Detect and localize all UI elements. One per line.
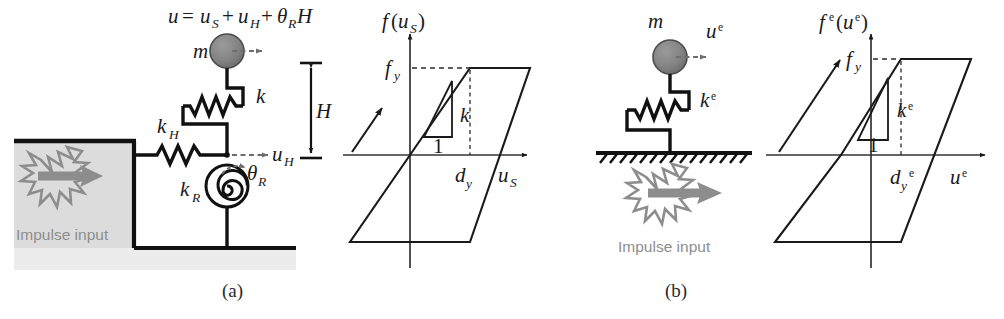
spring-ke-assembly: k e bbox=[627, 74, 716, 153]
fy-label-right: f bbox=[846, 47, 855, 71]
mass-a: m bbox=[193, 34, 262, 68]
H-label: H bbox=[315, 99, 333, 123]
equation-plus-2: + bbox=[261, 4, 273, 28]
xlabel-u-right: u bbox=[950, 165, 961, 189]
slope-triangle-left bbox=[424, 81, 452, 137]
spring-kh-label: k bbox=[157, 114, 167, 138]
k-label-right: k bbox=[897, 98, 907, 122]
fy-sublabel-right: y bbox=[853, 59, 861, 74]
k-label-left: k bbox=[460, 103, 470, 127]
loop-direction-arrow-left bbox=[352, 108, 382, 152]
equation-plus-1: + bbox=[222, 4, 234, 28]
figure-container: Impulse input u = u S + u H + θ R H m bbox=[0, 0, 1004, 319]
ylabel-open-right: ( bbox=[836, 10, 843, 34]
fixed-ground-b bbox=[596, 153, 752, 163]
mass-label-a: m bbox=[193, 39, 208, 63]
mass-b: m u e bbox=[648, 9, 723, 74]
xlabel-u-left: u bbox=[498, 163, 509, 187]
equation-us-sub: S bbox=[212, 16, 219, 31]
spring-k-label: k bbox=[256, 84, 266, 108]
ylabel-f-left: f bbox=[382, 9, 391, 33]
equation-uh: u bbox=[238, 4, 249, 28]
disp-label-b: u bbox=[706, 19, 717, 43]
xlabel-sub-left: S bbox=[510, 175, 517, 190]
spring-ke-label: k bbox=[700, 88, 710, 112]
ylabel-f-right: f bbox=[819, 10, 828, 34]
spring-kh-coil bbox=[134, 146, 227, 164]
ylabel-sub-left: S bbox=[410, 21, 417, 36]
mass-circle-b bbox=[653, 40, 687, 74]
hysteresis-right: f e ( u e ) u e f y d y e k e 1 bbox=[766, 10, 985, 268]
rod-spring-k-to-node bbox=[183, 106, 227, 155]
panel-a: Impulse input u = u S + u H + θ R H m bbox=[14, 4, 333, 302]
dy-sublabel-left: y bbox=[464, 176, 472, 191]
equation-u: u bbox=[168, 4, 179, 28]
ylabel-usup-right: e bbox=[855, 11, 860, 23]
ground-hatching-b bbox=[600, 154, 747, 163]
dy-sublabel-right: y bbox=[899, 178, 907, 193]
spring-kr-label: k bbox=[180, 177, 190, 201]
height-dimension-H: H bbox=[300, 63, 333, 158]
impulse-burst-b bbox=[626, 164, 722, 224]
loop-direction-arrow-right bbox=[779, 60, 840, 152]
equation-theta: θ bbox=[277, 4, 287, 28]
theta-r-label: θ bbox=[247, 161, 257, 185]
mass-circle-a bbox=[210, 34, 244, 68]
figure-canvas: Impulse input u = u S + u H + θ R H m bbox=[0, 0, 1004, 319]
spring-ke-coil bbox=[627, 101, 689, 119]
caption-b: (b) bbox=[665, 280, 687, 302]
spring-k-assembly: k bbox=[183, 68, 266, 155]
ylabel-u-right: u bbox=[843, 10, 854, 34]
y-axis-label-left: f ( u S ) bbox=[382, 9, 425, 36]
unit-run-label-right: 1 bbox=[868, 133, 879, 157]
ylabel-close-right: ) bbox=[861, 10, 868, 34]
theta-r-sublabel: R bbox=[257, 174, 267, 189]
equation-uh-sub: H bbox=[249, 16, 261, 31]
base-node bbox=[224, 152, 230, 158]
annotation-k-right: k e bbox=[897, 98, 913, 122]
spring-kh-assembly: k H bbox=[134, 114, 227, 164]
spring-kr-assembly: k R bbox=[180, 165, 248, 248]
ylabel-sup-right: e bbox=[829, 11, 834, 23]
ylabel-open-left: ( bbox=[391, 9, 398, 33]
ylabel-close-left: ) bbox=[418, 9, 425, 33]
caption-a: (a) bbox=[222, 280, 243, 302]
x-axis-label-right: u e bbox=[950, 165, 967, 189]
equation-equals: = bbox=[182, 4, 194, 28]
unit-run-label-left: 1 bbox=[433, 134, 444, 158]
ylabel-u-left: u bbox=[398, 9, 409, 33]
rod-spring-ke-to-ground bbox=[627, 110, 670, 153]
disp-sup-b: e bbox=[718, 21, 723, 33]
k-sup-right: e bbox=[908, 100, 913, 112]
soil-block-shadow bbox=[14, 248, 296, 270]
fy-label-left: f bbox=[385, 56, 394, 80]
spring-kr-sublabel: R bbox=[191, 190, 201, 205]
spring-kh-sublabel: H bbox=[168, 127, 180, 142]
equation-theta-sub: R bbox=[287, 16, 297, 31]
spring-k-coil bbox=[183, 97, 243, 115]
equation-a: u = u S + u H + θ R H bbox=[168, 4, 314, 31]
mass-label-b: m bbox=[648, 9, 663, 33]
annotation-dy-left: d y bbox=[455, 163, 472, 191]
y-axis-label-right: f e ( u e ) bbox=[819, 10, 868, 34]
annotation-fy-left: f y bbox=[385, 56, 400, 83]
annotation-dy-right: d y e bbox=[890, 165, 914, 193]
spring-kr-spiral bbox=[218, 170, 247, 199]
dy-label-left: d bbox=[455, 163, 466, 187]
uh-sublabel: H bbox=[283, 154, 295, 169]
dy-suplabel-right: e bbox=[909, 167, 914, 179]
displacement-uh: u H bbox=[232, 142, 295, 169]
equation-H: H bbox=[296, 4, 314, 28]
uh-label: u bbox=[272, 142, 283, 166]
spring-ke-sup: e bbox=[711, 90, 716, 102]
impulse-label-a: Impulse input bbox=[16, 226, 109, 243]
annotation-fy-right: f y bbox=[846, 47, 861, 74]
dy-label-right: d bbox=[890, 165, 901, 189]
hysteresis-left: f ( u S ) u S f y d y k 1 bbox=[343, 9, 530, 268]
equation-us: u bbox=[200, 4, 211, 28]
slope-triangle-right bbox=[858, 78, 888, 140]
panel-b: m u e k e bbox=[596, 9, 752, 302]
fy-sublabel-left: y bbox=[392, 68, 400, 83]
x-axis-label-left: u S bbox=[498, 163, 517, 190]
xlabel-sup-right: e bbox=[962, 167, 967, 179]
